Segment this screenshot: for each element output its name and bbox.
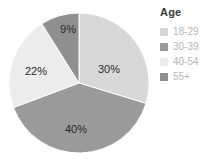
pie-label-40-54: 22% xyxy=(25,65,47,77)
pie-chart-figure: 30% 40% 22% 9% Age 18-29 30-39 40-54 55+ xyxy=(0,0,212,164)
legend-label-55-plus: 55+ xyxy=(173,71,190,82)
legend: Age 18-29 30-39 40-54 55+ xyxy=(160,6,212,84)
legend-swatch-icon-40-54 xyxy=(160,58,168,66)
legend-swatch-icon-30-39 xyxy=(160,43,168,51)
legend-swatch-icon-55-plus xyxy=(160,73,168,81)
pie-label-18-29: 30% xyxy=(98,63,120,75)
pie-chart-svg: 30% 40% 22% 9% xyxy=(8,10,150,156)
pie-label-30-39: 40% xyxy=(65,123,87,135)
legend-item-30-39[interactable]: 30-39 xyxy=(160,39,212,54)
legend-swatch-icon-18-29 xyxy=(160,28,168,36)
legend-title: Age xyxy=(160,6,212,18)
legend-label-30-39: 30-39 xyxy=(173,41,199,52)
legend-item-18-29[interactable]: 18-29 xyxy=(160,24,212,39)
legend-item-55-plus[interactable]: 55+ xyxy=(160,69,212,84)
legend-label-40-54: 40-54 xyxy=(173,56,199,67)
pie-chart-plot-area: 30% 40% 22% 9% xyxy=(8,10,150,156)
legend-label-18-29: 18-29 xyxy=(173,26,199,37)
legend-item-40-54[interactable]: 40-54 xyxy=(160,54,212,69)
pie-label-55-plus: 9% xyxy=(60,23,76,35)
